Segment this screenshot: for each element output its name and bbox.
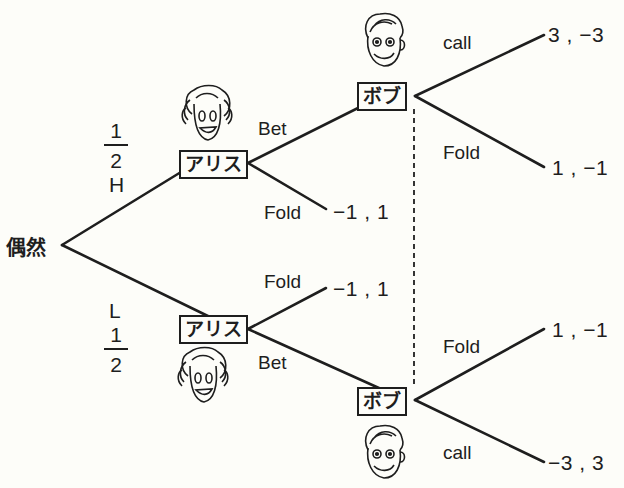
action-label-lower-alice-bet: Bet: [258, 353, 287, 372]
alice-face-icon: [178, 84, 236, 146]
action-label-upper-alice-bet: Bet: [258, 119, 287, 138]
bob-node-lower: ボブ: [357, 387, 407, 416]
low-prob-denominator: 2: [110, 353, 122, 376]
chance-node-label: 偶然: [6, 232, 46, 261]
payoff-h-fold: −1 , 1: [333, 201, 389, 222]
alice-face-icon: [174, 346, 232, 408]
low-prob-numerator: 1: [110, 323, 122, 346]
action-label-lower-alice-fold: Fold: [264, 272, 301, 291]
fraction-bar: [104, 144, 128, 146]
alice-node-upper: アリス: [179, 150, 248, 179]
edge-lower-bob-call: [415, 400, 544, 462]
payoff-h-bet-call: 3 , −3: [548, 24, 604, 45]
edge-upper-bob-call: [415, 35, 544, 96]
fraction-bar: [104, 348, 128, 350]
action-label-upper-bob-call: call: [443, 33, 472, 52]
tree-edges: [0, 0, 624, 488]
payoff-l-bet-call: −3 , 3: [548, 452, 604, 473]
high-prob-numerator: 1: [110, 119, 122, 142]
action-label-lower-bob-fold: Fold: [443, 337, 480, 356]
low-branch-label: L: [109, 300, 121, 321]
action-label-upper-alice-fold: Fold: [264, 203, 301, 222]
bob-node-upper: ボブ: [357, 82, 407, 111]
high-branch-label: H: [109, 174, 124, 195]
action-label-lower-bob-call: call: [443, 443, 472, 462]
payoff-l-bet-fold: 1 , −1: [552, 319, 608, 340]
edge-lower-alice-fold: [248, 288, 326, 329]
bob-face-icon: [360, 10, 408, 70]
game-tree-diagram: 偶然 1 2 H L 1 2 アリス アリス ボブ ボブ: [0, 0, 624, 488]
edge-chance-low: [62, 245, 212, 318]
bob-face-icon: [360, 422, 408, 482]
low-probability: 1 2: [104, 324, 128, 375]
high-prob-denominator: 2: [110, 149, 122, 172]
high-probability: 1 2: [104, 120, 128, 171]
alice-node-lower: アリス: [179, 315, 248, 344]
action-label-upper-bob-fold: Fold: [443, 143, 480, 162]
payoff-h-bet-fold: 1 , −1: [552, 157, 608, 178]
payoff-l-fold: −1 , 1: [333, 278, 389, 299]
